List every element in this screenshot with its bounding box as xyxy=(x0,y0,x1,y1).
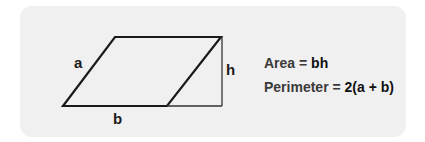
height-label-h: h xyxy=(226,62,235,77)
area-formula: Area = bh xyxy=(264,56,328,70)
perimeter-formula-value: 2(a + b) xyxy=(345,79,394,95)
area-formula-key: Area = xyxy=(264,55,307,71)
side-label-a: a xyxy=(74,55,82,70)
perimeter-formula-key: Perimeter = xyxy=(264,79,341,95)
parallelogram-shape xyxy=(63,37,221,106)
base-label-b: b xyxy=(113,111,122,126)
parallelogram-diagram xyxy=(0,0,425,142)
perimeter-formula: Perimeter = 2(a + b) xyxy=(264,80,394,94)
area-formula-value: bh xyxy=(311,55,328,71)
